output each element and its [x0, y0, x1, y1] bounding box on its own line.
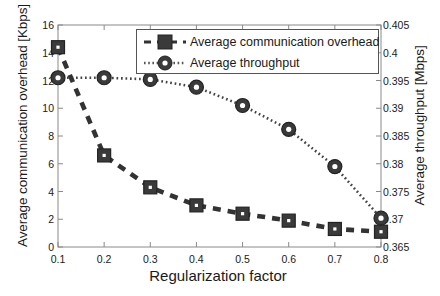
legend: Average communication overhead Average t…	[136, 29, 379, 74]
data-point-overhead-center	[287, 219, 290, 222]
data-point-overhead-center	[195, 204, 198, 207]
legend-label-overhead: Average communication overhead	[190, 35, 379, 49]
legend-label-throughput: Average throughput	[190, 56, 300, 70]
legend-sample-circle	[142, 53, 188, 73]
data-point-throughput-center	[286, 127, 291, 132]
data-point-overhead-center	[103, 154, 106, 157]
legend-item-overhead: Average communication overhead	[137, 31, 378, 53]
data-point-overhead-center	[56, 46, 59, 49]
legend-item-throughput: Average throughput	[137, 52, 378, 74]
data-point-throughput-center	[194, 85, 199, 90]
data-point-throughput-center	[240, 103, 245, 108]
data-point-overhead-center	[333, 227, 336, 230]
data-point-throughput-center	[332, 164, 337, 169]
data-point-throughput-center	[378, 216, 383, 221]
data-point-overhead-center	[379, 230, 382, 233]
legend-sample-square	[142, 32, 188, 52]
data-point-throughput-center	[102, 75, 107, 80]
data-point-throughput-center	[148, 77, 153, 82]
data-point-throughput-center	[55, 75, 60, 80]
data-point-overhead-center	[241, 212, 244, 215]
chart-figure: Average communication overhead [Kbps] Av…	[0, 0, 440, 296]
data-point-overhead-center	[149, 186, 152, 189]
series-line-throughput	[58, 78, 381, 218]
